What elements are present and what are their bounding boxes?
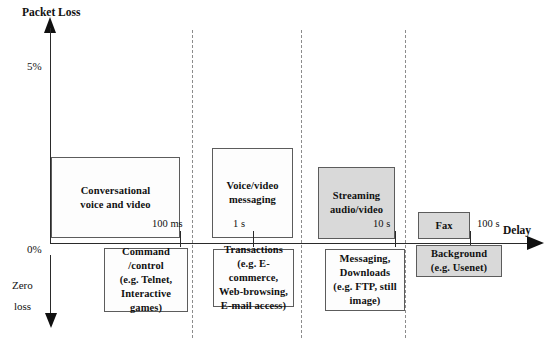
box-transactions[interactable]: Transactions (e.g. E-commerce, Web-brows… — [213, 249, 294, 307]
y-axis-title: Packet Loss — [22, 6, 80, 19]
x-axis-arrow-icon — [527, 236, 544, 250]
box-command-line1: Command — [108, 245, 184, 259]
box-messaging-line1: Messaging, — [333, 252, 396, 266]
y-tick-5pct: 5% — [27, 60, 42, 73]
x-axis-line — [50, 243, 539, 244]
box-command-line2: /control — [108, 259, 184, 273]
zero-loss-axis-line — [50, 255, 51, 317]
box-background-line1: Background — [431, 247, 487, 261]
box-messaging-line4: image) — [333, 294, 396, 308]
box-fax[interactable]: Fax — [418, 212, 470, 239]
box-command-control[interactable]: Command /control (e.g. Telnet, Interacti… — [104, 248, 188, 312]
tick-label-100ms: 100 ms — [152, 218, 183, 230]
zero-loss-label-line1: Zero — [12, 279, 33, 292]
box-messaging-line2: Downloads — [333, 266, 396, 280]
zero-loss-arrow-icon — [45, 313, 57, 328]
box-conversational-line2: voice and video — [80, 198, 150, 212]
box-streaming-line2: audio/video — [330, 203, 383, 217]
x-axis-title: Delay — [503, 224, 531, 237]
box-fax-label: Fax — [432, 219, 455, 233]
box-command-line4: Interactive games) — [108, 287, 184, 315]
qos-delay-packetloss-diagram: Packet Loss 5% 0% Zero loss Delay Conver… — [0, 0, 551, 355]
box-transactions-line4: E-mail access) — [217, 299, 290, 313]
box-messaging-downloads[interactable]: Messaging, Downloads (e.g. FTP, still im… — [325, 249, 405, 311]
tick-label-100s: 100 s — [477, 218, 499, 230]
box-conversational-line1: Conversational — [80, 184, 150, 198]
box-transactions-line2: (e.g. E-commerce, — [217, 257, 290, 285]
tick-label-1s: 1 s — [233, 218, 245, 230]
box-streaming-line1: Streaming — [330, 189, 383, 203]
separator-dashed-3 — [405, 30, 406, 338]
tick-label-10s: 10 s — [373, 218, 390, 230]
tick-mark-10s — [395, 231, 396, 247]
box-transactions-line3: Web-browsing, — [217, 285, 290, 299]
box-voicevideo-line1: Voice/video — [226, 179, 278, 193]
box-voicevideo-line2: messaging — [226, 193, 278, 207]
separator-dashed-2 — [301, 30, 302, 338]
box-voice-video-messaging[interactable]: Voice/video messaging — [212, 148, 293, 238]
box-transactions-line1: Transactions — [217, 243, 290, 257]
y-tick-0pct: 0% — [27, 243, 42, 256]
box-background[interactable]: Background (e.g. Usenet) — [416, 245, 502, 277]
zero-loss-label-line2: loss — [14, 300, 31, 313]
separator-dashed-1 — [192, 30, 193, 338]
box-command-line3: (e.g. Telnet, — [108, 273, 184, 287]
box-messaging-line3: (e.g. FTP, still — [333, 280, 396, 294]
box-background-line2: (e.g. Usenet) — [431, 261, 487, 275]
